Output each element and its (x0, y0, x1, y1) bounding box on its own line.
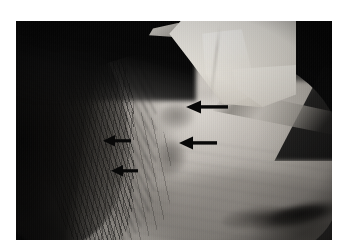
figure-page: Lateral clinical photograph of a forehea… (0, 0, 341, 252)
clinical-photograph (16, 21, 332, 240)
figure-caption (0, 0, 1, 1)
brow-under-shadow (254, 217, 332, 240)
temple-hair-strands (76, 111, 171, 240)
figure-alt-text: Lateral clinical photograph of a forehea… (0, 0, 1, 1)
